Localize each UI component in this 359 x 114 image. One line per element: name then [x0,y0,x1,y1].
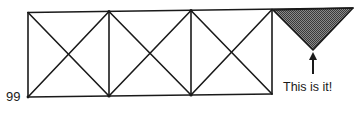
up-arrow-icon [309,52,317,74]
page-number: 99 [6,89,20,104]
truss-diagram: 99 This is it! [0,0,359,114]
highlighted-triangle [273,8,353,50]
bottom-chord [28,94,272,97]
callout-label: This is it! [283,80,332,94]
